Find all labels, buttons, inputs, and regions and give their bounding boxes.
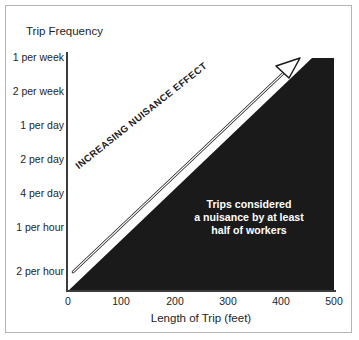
- y-axis-line: [66, 52, 68, 292]
- x-tick-label: 100: [99, 295, 143, 307]
- x-axis-line: [66, 290, 336, 292]
- shaded-nuisance-region: [68, 58, 334, 291]
- plot-graphics: [68, 53, 334, 291]
- y-tick-label: 4 per day: [2, 188, 64, 199]
- y-tick-label: 1 per week: [2, 52, 64, 63]
- x-tick-label: 400: [259, 295, 303, 307]
- x-tick-label: 200: [153, 295, 197, 307]
- x-tick-label: 500: [312, 295, 356, 307]
- y-tick-label: 2 per hour: [2, 266, 64, 277]
- x-tick-label: 0: [46, 295, 90, 307]
- shaded-region-callout: Trips considered a nuisance by at least …: [176, 198, 322, 238]
- x-axis-tick-labels: 0 100 200 300 400 500: [0, 295, 359, 311]
- y-tick-label: 1 per day: [2, 120, 64, 131]
- x-axis-title: Length of Trip (feet): [68, 312, 334, 324]
- chart-figure: Trip Frequency 1 per week 2 per week 1 p…: [0, 0, 359, 340]
- y-axis-tick-labels: 1 per week 2 per week 1 per day 2 per da…: [0, 0, 64, 340]
- x-tick-label: 300: [206, 295, 250, 307]
- y-tick-label: 2 per week: [2, 86, 64, 97]
- plot-area: [68, 53, 334, 291]
- y-tick-label: 1 per hour: [2, 222, 64, 233]
- y-tick-label: 2 per day: [2, 154, 64, 165]
